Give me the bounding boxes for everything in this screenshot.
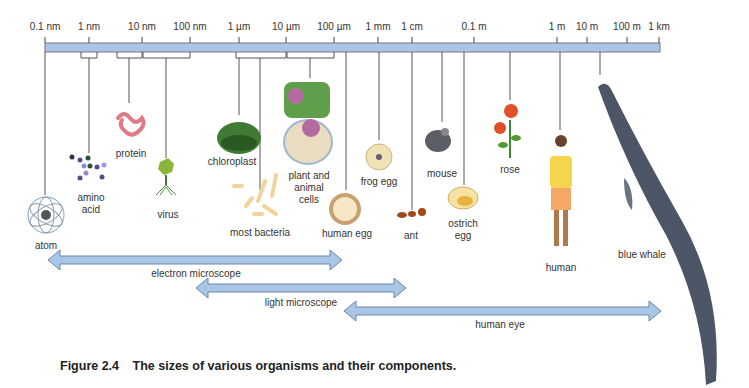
figure-caption-text: The sizes of various organisms and their… — [133, 359, 457, 373]
tick-marks — [45, 37, 659, 43]
figure-caption: Figure 2.4 The sizes of various organism… — [60, 359, 466, 373]
label-amino-acid: amino acid — [77, 192, 104, 216]
tick-label: 100 nm — [173, 21, 206, 32]
tick-label: 0.1 nm — [30, 21, 61, 32]
tick-label: 100 m — [613, 21, 641, 32]
protein-icon — [118, 114, 144, 135]
diagram-graphics — [0, 0, 749, 388]
chloroplast-icon — [217, 122, 261, 154]
tick-label: 1 m — [549, 21, 566, 32]
label-human-eye: human eye — [475, 319, 524, 331]
label-most-bacteria: most bacteria — [230, 227, 290, 239]
virus-icon — [156, 158, 176, 195]
bacteria-icon — [234, 175, 276, 214]
range-arrows — [48, 250, 661, 321]
human-icon — [550, 135, 572, 246]
blue-whale-icon — [598, 84, 717, 385]
label-electron-microscope: electron microscope — [151, 268, 240, 280]
scale-bar — [45, 43, 660, 52]
label-ostrich-egg: ostrich egg — [448, 218, 477, 242]
rose-icon — [494, 104, 521, 158]
atom-icon — [26, 197, 65, 233]
label-chloroplast: chloroplast — [208, 156, 256, 168]
tick-label: 1 µm — [228, 21, 250, 32]
label-cells: plant and animal cells — [288, 170, 329, 206]
amino-acid-icon — [70, 155, 107, 181]
cells-icon — [284, 82, 332, 164]
label-blue-whale: blue whale — [618, 249, 666, 261]
label-human-egg: human egg — [322, 228, 372, 240]
label-mouse: mouse — [427, 168, 457, 180]
tick-label: 100 µm — [317, 21, 351, 32]
label-ant: ant — [404, 230, 418, 242]
tick-label: 0.1 m — [461, 21, 486, 32]
label-protein: protein — [116, 148, 147, 160]
label-rose: rose — [500, 164, 519, 176]
label-human: human — [546, 262, 577, 274]
frog-egg-icon — [366, 144, 392, 170]
label-frog-egg: frog egg — [361, 176, 398, 188]
human-egg-icon — [329, 193, 361, 225]
tick-label: 10 µm — [272, 21, 300, 32]
tick-label: 1 nm — [78, 21, 100, 32]
mouse-icon — [425, 128, 451, 152]
label-virus: virus — [157, 209, 178, 221]
figure-number: Figure 2.4 — [60, 359, 119, 373]
tick-label: 10 m — [576, 21, 598, 32]
ostrich-egg-icon — [448, 187, 478, 209]
range-brackets — [81, 52, 334, 58]
label-atom: atom — [35, 240, 57, 252]
tick-label: 1 cm — [401, 21, 423, 32]
label-light-microscope: light microscope — [265, 297, 337, 309]
tick-label: 1 km — [648, 21, 670, 32]
tick-label: 1 mm — [366, 21, 391, 32]
tick-label: 10 nm — [128, 21, 156, 32]
